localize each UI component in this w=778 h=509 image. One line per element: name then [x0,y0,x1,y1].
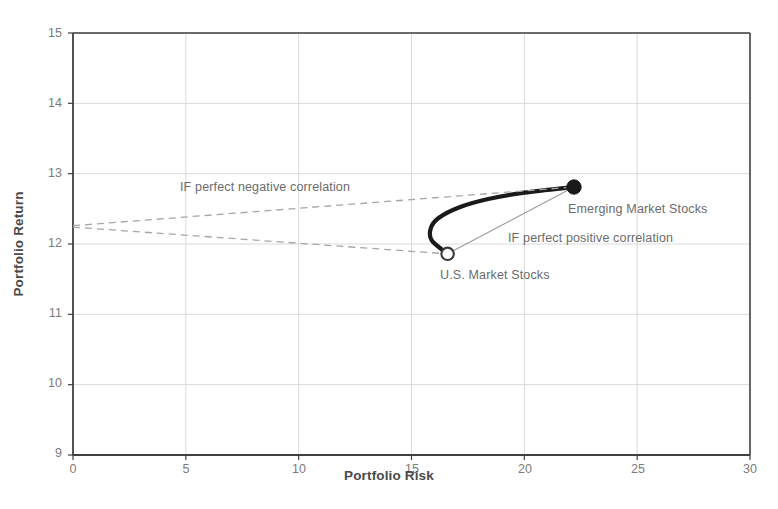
y-tick-label-13: 13 [36,166,62,180]
emerging-market-stocks-label: Emerging Market Stocks [568,202,707,216]
y-tick-label-10: 10 [36,376,62,390]
positive-correlation-annotation: IF perfect positive correlation [508,231,673,245]
y-tick-label-15: 15 [36,26,62,40]
negative-correlation-annotation: IF perfect negative correlation [180,180,350,194]
axes-group [68,33,750,460]
marker-emerging-market-stocks[interactable] [567,180,581,194]
series-perfect-negative-correlation-lower [73,227,448,254]
x-tick-label-25: 25 [631,462,645,476]
x-tick-label-20: 20 [518,462,532,476]
y-tick-label-12: 12 [36,236,62,250]
x-tick-label-5: 5 [182,462,189,476]
marker-us-market-stocks[interactable] [441,248,453,260]
chart-container: 15 14 13 12 11 10 9 0 5 10 15 20 25 30 P… [0,0,778,509]
x-tick-label-10: 10 [292,462,306,476]
y-tick-label-14: 14 [36,96,62,110]
x-axis-title: Portfolio Risk [344,468,434,483]
x-tick-label-30: 30 [743,462,757,476]
us-market-stocks-label: U.S. Market Stocks [440,268,550,282]
x-tick-label-0: 0 [69,462,76,476]
y-tick-label-9: 9 [36,446,62,460]
y-axis-title: Portfolio Return [11,191,26,296]
y-tick-label-11: 11 [36,306,62,320]
chart-canvas [0,0,778,509]
